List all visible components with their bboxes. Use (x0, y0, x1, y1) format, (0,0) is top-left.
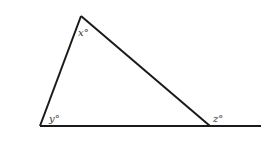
right-side (81, 16, 210, 126)
angle-z-label: z° (212, 113, 223, 124)
angle-x-label: x° (78, 27, 89, 38)
angle-y-label: y° (48, 113, 60, 124)
triangle-diagram: x° y° z° (0, 0, 279, 143)
left-side (40, 16, 81, 126)
